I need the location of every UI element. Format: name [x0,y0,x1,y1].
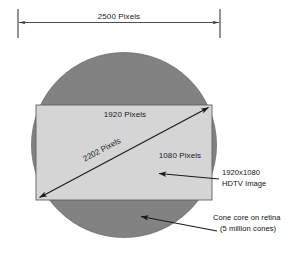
callout-hdtv-line1: 1920x1080 [222,168,260,177]
dimension-label-2500: 2500 Pixels [98,12,140,21]
top-dimension-group: 2500 Pixels [18,9,220,38]
diagram-svg: 2500 Pixels 1920 Pixels 1080 Pixels 2202… [0,0,299,267]
label-width-1920: 1920 Pixels [104,110,146,119]
callout-cone-line2: (5 million cones) [220,224,277,233]
diagram-canvas: 2500 Pixels 1920 Pixels 1080 Pixels 2202… [0,0,299,267]
label-height-1080: 1080 Pixels [159,151,201,160]
callout-hdtv-line2: HDTV Image [222,179,266,188]
callout-cone-line1: Cone core on retina [213,213,281,222]
